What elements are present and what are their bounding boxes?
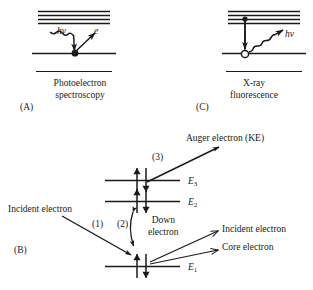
- panel-a-caption-line1: Photoelectron: [22, 78, 138, 90]
- panel-b-step2-label: (2): [117, 219, 128, 229]
- panel-a-graphics: [32, 12, 116, 72]
- panel-b-graphics: [62, 147, 219, 278]
- panel-b-auger-electron-label: Auger electron (KE): [186, 133, 264, 143]
- panel-b-level-label-e2: E2: [188, 197, 197, 209]
- panel-b-level-label-e3-sub: 3: [194, 180, 198, 188]
- panel-a-letter: (A): [20, 102, 33, 112]
- panel-c-graphics: [222, 12, 306, 72]
- panel-b-level-label-e2-sub: 2: [194, 201, 198, 209]
- panel-b-level-label-e1: E1: [188, 262, 197, 274]
- panel-b-level-e2: [105, 189, 180, 213]
- panel-b-incident-electron-in-label: Incident electron: [8, 204, 72, 214]
- panel-b-incident-electron-out-label: Incident electron: [222, 224, 286, 234]
- panel-a-outgoing-electron-label: e: [94, 26, 98, 36]
- panel-b-level-label-e1-sub: 1: [194, 266, 198, 274]
- panel-b-down-electron-line1: Down: [148, 215, 179, 227]
- panel-b-letter: (B): [14, 245, 27, 255]
- panel-c-band-lines: [228, 12, 300, 24]
- panel-b-core-electron-out-label: Core electron: [222, 242, 273, 252]
- panel-c-letter: (C): [196, 102, 209, 112]
- panel-a-caption: Photoelectron spectroscopy: [22, 78, 138, 101]
- panel-c-caption: X-ray fluorescence: [196, 78, 312, 101]
- panel-b-down-electron-line2: electron: [148, 227, 179, 239]
- panel-b-step3-label: (3): [152, 152, 163, 162]
- panel-a-caption-line2: spectroscopy: [22, 90, 138, 102]
- panel-c-caption-line2: fluorescence: [196, 90, 312, 102]
- panel-b-step1-label: (1): [92, 219, 103, 229]
- panel-c-emission-label: hv: [285, 29, 294, 39]
- panel-b-level-e1: [105, 254, 180, 278]
- panel-a-outgoing-electron-arrow: [75, 33, 95, 52]
- panel-c-upper-electron-dot: [242, 16, 247, 21]
- physics-process-figure: Photoelectron spectroscopy (A) hv e X-ra…: [0, 0, 313, 290]
- panel-b-step2-arrow: [130, 212, 133, 246]
- panel-c-caption-line1: X-ray: [196, 78, 312, 90]
- panel-a-electron-dot: [72, 50, 79, 57]
- panel-c-emitted-photon-arrow: [249, 30, 283, 52]
- panel-b-level-label-e3: E3: [188, 176, 197, 188]
- panel-a-band-lines: [38, 12, 110, 24]
- panel-a-incoming-photon-label: hv: [57, 26, 66, 36]
- panel-c-core-hole-circle: [241, 50, 248, 57]
- panel-b-down-electron-label: Down electron: [148, 215, 179, 238]
